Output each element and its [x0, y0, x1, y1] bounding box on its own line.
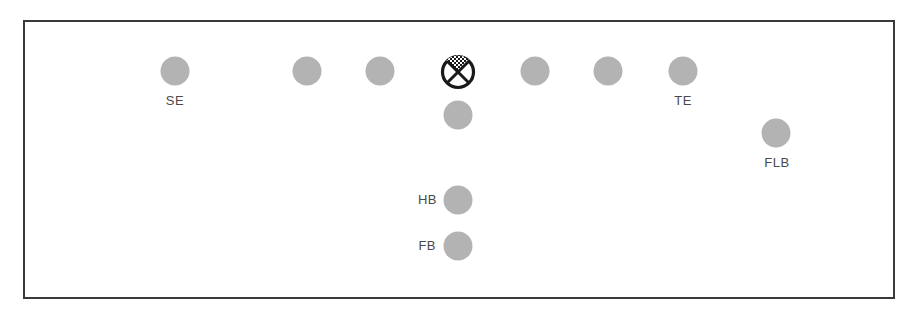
center-icon	[443, 55, 474, 87]
label-te: TE	[674, 94, 692, 108]
player-left-tackle	[293, 57, 322, 86]
player-left-guard	[366, 57, 395, 86]
player-qb	[444, 101, 473, 130]
label-fb: FB	[418, 239, 436, 253]
player-se	[161, 57, 190, 86]
player-hb	[444, 186, 473, 215]
label-flb: FLB	[764, 156, 789, 170]
label-hb: HB	[418, 193, 437, 207]
player-right-tackle	[594, 57, 623, 86]
player-flb	[762, 119, 791, 148]
player-te	[669, 57, 698, 86]
player-right-guard	[521, 57, 550, 86]
player-fb	[444, 232, 473, 261]
label-se: SE	[166, 94, 184, 108]
